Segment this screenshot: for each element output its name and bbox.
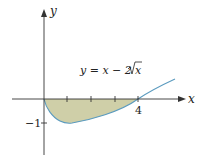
x-axis-arrow-icon bbox=[178, 96, 186, 102]
x-axis-label: x bbox=[188, 92, 195, 106]
x-tick-label-4: 4 bbox=[135, 104, 142, 117]
y-tick-label-neg1: −1 bbox=[25, 117, 41, 130]
equation-radicand: x bbox=[135, 64, 142, 77]
y-axis-label: y bbox=[49, 4, 57, 18]
y-axis-arrow-icon bbox=[41, 9, 47, 17]
equation-label: y = x − 2 bbox=[79, 64, 132, 77]
region-diagram: y x 4 −1 y = x − 2 x bbox=[0, 0, 199, 162]
